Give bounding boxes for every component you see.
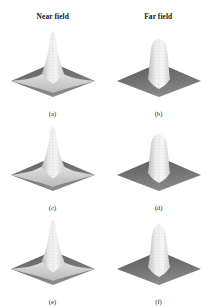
surface-plot-b bbox=[113, 27, 205, 101]
panel-row: (e) (f) bbox=[0, 214, 211, 307]
panel-caption-a: (a) bbox=[0, 109, 105, 118]
surface-plot-figure: Near field Far field bbox=[0, 0, 211, 307]
column-header-near-field: Near field bbox=[0, 11, 106, 23]
surface-plot-svg-rounded bbox=[113, 121, 205, 195]
surface-plot-d bbox=[113, 121, 205, 195]
surface-panel-e: (e) bbox=[0, 214, 105, 307]
panel-grid: (a) bbox=[0, 26, 211, 307]
surface-panel-c: (c) bbox=[0, 120, 105, 214]
panel-caption-c: (c) bbox=[0, 203, 105, 212]
panel-row: (c) (d) bbox=[0, 120, 211, 214]
surface-panel-f: (f) bbox=[106, 214, 211, 307]
surface-plot-svg-rounded bbox=[113, 215, 205, 289]
column-header-far-field: Far field bbox=[106, 11, 212, 23]
panel-row: (a) bbox=[0, 26, 211, 120]
surface-plot-c bbox=[7, 121, 99, 195]
panel-caption-e: (e) bbox=[0, 297, 105, 306]
surface-panel-a: (a) bbox=[0, 26, 105, 120]
panel-caption-f: (f) bbox=[106, 297, 211, 306]
surface-plot-e bbox=[7, 215, 99, 289]
column-header-row: Near field Far field bbox=[0, 11, 211, 23]
surface-plot-svg-peaked bbox=[7, 215, 99, 289]
surface-plot-f bbox=[113, 215, 205, 289]
panel-caption-b: (b) bbox=[106, 109, 211, 118]
panel-caption-d: (d) bbox=[106, 203, 211, 212]
surface-plot-svg-peaked bbox=[7, 121, 99, 195]
surface-plot-svg-rounded bbox=[113, 27, 205, 101]
surface-panel-b: (b) bbox=[106, 26, 211, 120]
surface-plot-svg-peaked bbox=[7, 27, 99, 101]
surface-plot-a bbox=[7, 27, 99, 101]
surface-panel-d: (d) bbox=[106, 120, 211, 214]
